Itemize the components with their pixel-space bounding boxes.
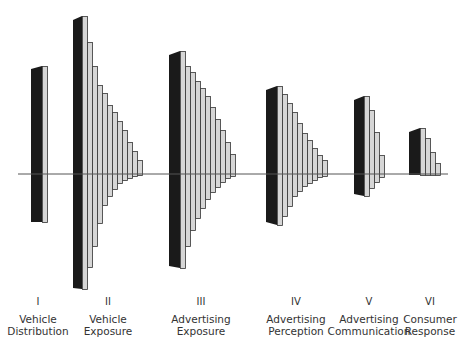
stage-6-bar (426, 139, 431, 176)
stage-2-bar (113, 113, 118, 190)
stage-2-bar (93, 67, 98, 247)
stage-5-bar (365, 97, 370, 197)
stage-3-bar (221, 131, 226, 183)
stage-3-bar (201, 89, 206, 209)
stage-5-bar (370, 111, 375, 189)
stage-3-bar (191, 73, 196, 231)
stage-4-bar (288, 104, 293, 207)
stage-2-bar (123, 131, 128, 181)
stage-2-side-panel (73, 16, 82, 289)
stage-3-bar (186, 67, 191, 247)
stage-3-bar (206, 97, 211, 200)
stage-5-side-panel (354, 96, 364, 196)
stage-3-bar (211, 108, 216, 193)
stage-3-bar (226, 143, 231, 179)
stage-2-bar (103, 94, 108, 206)
stage-4-bar (313, 149, 318, 181)
stage-5-bar (375, 133, 380, 183)
stage-4-bar (308, 141, 313, 184)
stage-6-bar (421, 129, 426, 176)
stage-4-bar (283, 95, 288, 217)
funnel-diagram (0, 0, 469, 346)
stage-4-bar (303, 134, 308, 187)
stage-2-bar (128, 143, 133, 179)
stage-6-side-panel (409, 128, 420, 175)
stage-4-bar (293, 113, 298, 197)
stage-1-side-panel (31, 66, 42, 222)
stage-2-bar (88, 43, 93, 268)
stage-3-bar (181, 52, 186, 269)
stage-3-bar (231, 155, 236, 177)
stage-2-bar (138, 161, 143, 176)
stage-4-bar (298, 124, 303, 192)
stage-3-bar (196, 82, 201, 219)
stage-3-side-panel (169, 51, 180, 268)
stage-2-bar (108, 106, 113, 197)
stage-4-bar (278, 87, 283, 226)
stage-2-bar (133, 152, 138, 177)
stage-1-bar (43, 67, 48, 223)
stage-6-bar (431, 153, 436, 176)
stage-2-bar (83, 17, 88, 290)
stage-4-side-panel (266, 86, 277, 225)
stage-3-bar (216, 120, 221, 188)
stage-2-bar (98, 86, 103, 224)
